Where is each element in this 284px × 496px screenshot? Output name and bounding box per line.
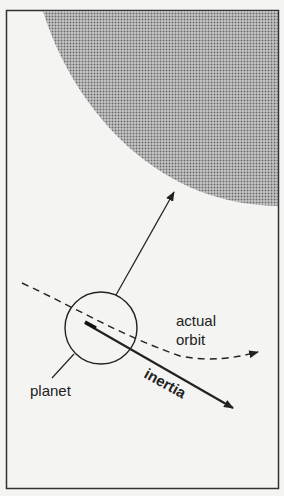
- actual-orbit-label-2: orbit: [176, 331, 206, 348]
- orbit-diagram: actual orbit planet inertia: [0, 0, 284, 496]
- planet-label: planet: [30, 382, 72, 399]
- actual-orbit-label-1: actual: [176, 312, 216, 329]
